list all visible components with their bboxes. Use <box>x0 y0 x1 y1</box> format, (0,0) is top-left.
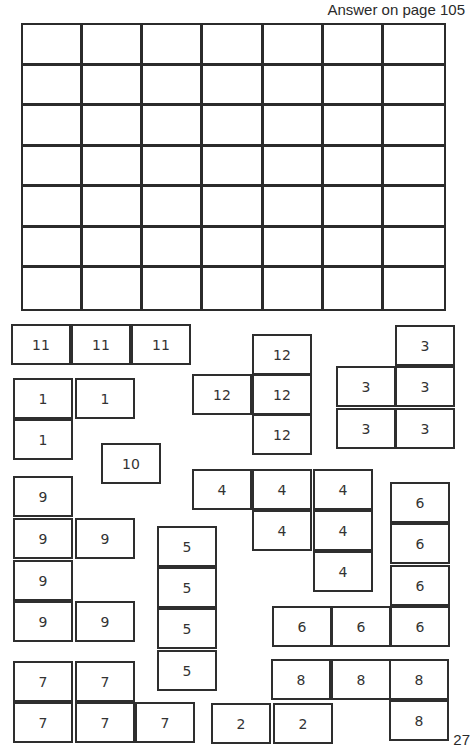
grid-cell[interactable] <box>23 228 83 269</box>
piece-cell: 9 <box>13 560 73 601</box>
piece-cell: 3 <box>395 366 455 407</box>
grid-cell[interactable] <box>23 147 83 188</box>
grid-cell[interactable] <box>23 268 83 309</box>
grid-cell[interactable] <box>143 147 203 188</box>
piece-cell: 4 <box>192 469 252 510</box>
piece-cell: 9 <box>13 601 73 642</box>
grid-cell[interactable] <box>384 268 444 309</box>
grid-cell[interactable] <box>324 187 384 228</box>
piece-cell: 12 <box>252 414 312 455</box>
piece-cell: 7 <box>135 702 195 743</box>
piece-cell: 4 <box>313 510 373 551</box>
page-number: 27 <box>453 731 470 748</box>
piece-cell: 9 <box>75 518 135 559</box>
grid-cell[interactable] <box>324 66 384 107</box>
grid-cell[interactable] <box>264 106 324 147</box>
grid-cell[interactable] <box>83 66 143 107</box>
piece-cell: 5 <box>157 608 217 649</box>
grid-cell[interactable] <box>143 25 203 66</box>
piece-cell: 1 <box>13 419 73 460</box>
piece-cell: 11 <box>131 324 191 365</box>
grid-cell[interactable] <box>143 187 203 228</box>
piece-cell: 3 <box>395 325 455 366</box>
grid-cell[interactable] <box>143 228 203 269</box>
grid-cell[interactable] <box>143 106 203 147</box>
grid-cell[interactable] <box>83 147 143 188</box>
grid-cell[interactable] <box>203 25 263 66</box>
piece-cell: 5 <box>157 567 217 608</box>
grid-cell[interactable] <box>83 268 143 309</box>
grid-cell[interactable] <box>23 187 83 228</box>
puzzle-grid[interactable] <box>21 23 446 311</box>
piece-cell: 1 <box>75 378 135 419</box>
answer-reference: Answer on page 105 <box>327 1 465 18</box>
grid-cell[interactable] <box>203 268 263 309</box>
grid-cell[interactable] <box>264 228 324 269</box>
piece-cell: 4 <box>252 510 312 551</box>
grid-cell[interactable] <box>203 106 263 147</box>
grid-cell[interactable] <box>203 147 263 188</box>
grid-cell[interactable] <box>324 106 384 147</box>
grid-cell[interactable] <box>83 106 143 147</box>
grid-cell[interactable] <box>83 187 143 228</box>
piece-cell: 4 <box>313 469 373 510</box>
piece-cell: 12 <box>252 334 312 375</box>
grid-cell[interactable] <box>324 268 384 309</box>
piece-cell: 9 <box>13 518 73 559</box>
grid-cell[interactable] <box>384 66 444 107</box>
grid-cell[interactable] <box>384 228 444 269</box>
grid-cell[interactable] <box>384 25 444 66</box>
piece-cell: 1 <box>13 378 73 419</box>
grid-cell[interactable] <box>264 147 324 188</box>
grid-cell[interactable] <box>324 228 384 269</box>
grid-cell[interactable] <box>203 187 263 228</box>
grid-cell[interactable] <box>23 66 83 107</box>
piece-cell: 7 <box>75 702 135 743</box>
piece-cell: 5 <box>157 526 217 567</box>
grid-cell[interactable] <box>384 147 444 188</box>
piece-cell: 8 <box>389 700 449 741</box>
grid-cell[interactable] <box>143 66 203 107</box>
piece-cell: 2 <box>273 703 333 744</box>
grid-cell[interactable] <box>264 268 324 309</box>
grid-cell[interactable] <box>203 228 263 269</box>
grid-cell[interactable] <box>143 268 203 309</box>
piece-cell: 6 <box>390 523 450 564</box>
piece-cell: 8 <box>331 659 391 700</box>
grid-cell[interactable] <box>324 147 384 188</box>
piece-cell: 9 <box>75 601 135 642</box>
grid-cell[interactable] <box>264 66 324 107</box>
piece-cell: 8 <box>271 659 331 700</box>
grid-cell[interactable] <box>83 228 143 269</box>
piece-cell: 6 <box>331 606 391 647</box>
piece-cell: 6 <box>272 606 332 647</box>
piece-cell: 5 <box>157 650 217 691</box>
piece-cell: 9 <box>13 476 73 517</box>
piece-cell: 3 <box>336 366 396 407</box>
piece-cell: 7 <box>13 702 73 743</box>
grid-cell[interactable] <box>384 106 444 147</box>
grid-cell[interactable] <box>23 106 83 147</box>
grid-cell[interactable] <box>324 25 384 66</box>
piece-cell: 11 <box>71 324 131 365</box>
grid-cell[interactable] <box>83 25 143 66</box>
piece-cell: 3 <box>336 408 396 449</box>
piece-cell: 6 <box>390 565 450 606</box>
piece-cell: 6 <box>390 482 450 523</box>
piece-cell: 4 <box>252 469 312 510</box>
piece-cell: 4 <box>313 551 373 592</box>
piece-cell: 7 <box>13 661 73 702</box>
piece-cell: 10 <box>101 443 161 484</box>
piece-cell: 11 <box>11 324 71 365</box>
piece-cell: 3 <box>395 408 455 449</box>
piece-cell: 12 <box>192 374 252 415</box>
piece-cell: 2 <box>211 703 271 744</box>
grid-cell[interactable] <box>384 187 444 228</box>
grid-cell[interactable] <box>264 187 324 228</box>
piece-cell: 7 <box>75 661 135 702</box>
piece-cell: 12 <box>252 374 312 415</box>
grid-cell[interactable] <box>203 66 263 107</box>
piece-cell: 8 <box>389 659 449 700</box>
grid-cell[interactable] <box>264 25 324 66</box>
grid-cell[interactable] <box>23 25 83 66</box>
